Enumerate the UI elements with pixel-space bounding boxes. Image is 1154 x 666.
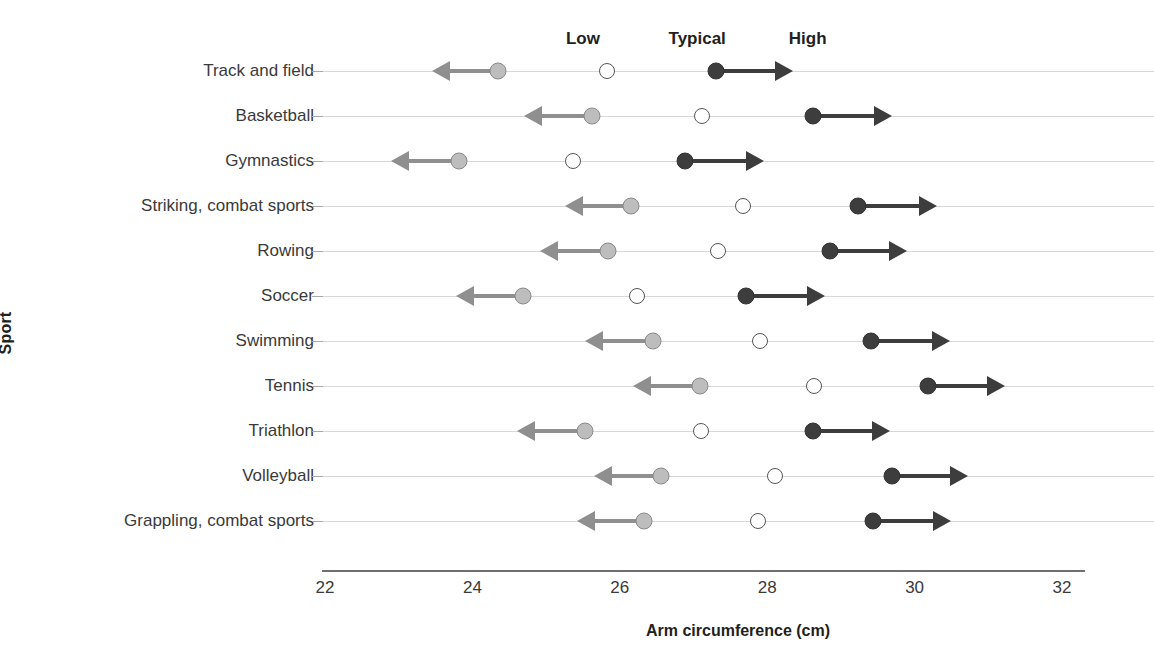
category-label: Track and field (12, 61, 322, 81)
y-axis-tick (312, 71, 323, 72)
x-axis-title: Arm circumference (cm) (322, 622, 1154, 640)
low-marker[interactable] (451, 153, 468, 170)
typical-marker[interactable] (752, 333, 768, 349)
low-marker[interactable] (577, 423, 594, 440)
low-arrow-head (391, 151, 409, 171)
low-arrow-head (565, 196, 583, 216)
high-arrow-head (807, 286, 825, 306)
low-marker[interactable] (600, 243, 617, 260)
category-label: Tennis (12, 376, 322, 396)
high-arrow-shaft (813, 114, 881, 118)
high-marker[interactable] (677, 153, 694, 170)
typical-marker[interactable] (710, 243, 726, 259)
high-arrow-head (874, 106, 892, 126)
high-arrow-shaft (871, 339, 938, 343)
low-arrow-head (456, 286, 474, 306)
high-arrow-head (746, 151, 764, 171)
category-label: Gymnastics (12, 151, 322, 171)
x-tick-label: 26 (610, 578, 629, 598)
band-label-low: Low (566, 29, 600, 49)
high-marker[interactable] (737, 288, 754, 305)
typical-marker[interactable] (750, 513, 766, 529)
high-arrow-shaft (830, 249, 895, 253)
y-axis-tick (312, 431, 323, 432)
category-label: Basketball (12, 106, 322, 126)
y-axis-tick (312, 476, 323, 477)
typical-marker[interactable] (629, 288, 645, 304)
y-axis-tick (312, 521, 323, 522)
typical-marker[interactable] (767, 468, 783, 484)
row-gridline (322, 476, 1154, 477)
x-tick-label: 32 (1053, 578, 1072, 598)
x-tick-label: 28 (758, 578, 777, 598)
high-arrow-shaft (813, 429, 878, 433)
low-arrow-head (585, 331, 603, 351)
low-marker[interactable] (583, 108, 600, 125)
high-arrow-shaft (716, 69, 781, 73)
high-marker[interactable] (919, 378, 936, 395)
low-marker[interactable] (490, 63, 507, 80)
typical-marker[interactable] (806, 378, 822, 394)
low-marker[interactable] (644, 333, 661, 350)
high-arrow-shaft (892, 474, 956, 478)
y-axis-tick (312, 161, 323, 162)
x-axis-line (322, 570, 1085, 572)
high-marker[interactable] (865, 513, 882, 530)
y-axis-tick (312, 296, 323, 297)
high-marker[interactable] (849, 198, 866, 215)
high-marker[interactable] (821, 243, 838, 260)
high-marker[interactable] (804, 108, 821, 125)
low-marker[interactable] (515, 288, 532, 305)
typical-marker[interactable] (693, 423, 709, 439)
category-label: Grappling, combat sports (12, 511, 322, 531)
high-marker[interactable] (883, 468, 900, 485)
high-marker[interactable] (863, 333, 880, 350)
y-axis-tick (312, 116, 323, 117)
high-arrow-head (775, 61, 793, 81)
high-marker[interactable] (804, 423, 821, 440)
high-arrow-shaft (873, 519, 939, 523)
high-arrow-head (889, 241, 907, 261)
band-label-high: High (789, 29, 827, 49)
high-arrow-shaft (858, 204, 925, 208)
typical-marker[interactable] (735, 198, 751, 214)
low-marker[interactable] (622, 198, 639, 215)
category-label: Volleyball (12, 466, 322, 486)
x-tick-label: 22 (316, 578, 335, 598)
typical-marker[interactable] (565, 153, 581, 169)
high-arrow-head (919, 196, 937, 216)
row-gridline (322, 521, 1154, 522)
low-arrow-head (633, 376, 651, 396)
low-marker[interactable] (636, 513, 653, 530)
low-arrow-head (577, 511, 595, 531)
band-label-typical: Typical (669, 29, 726, 49)
y-axis-tick (312, 386, 323, 387)
high-arrow-head (950, 466, 968, 486)
typical-marker[interactable] (599, 63, 615, 79)
category-label: Rowing (12, 241, 322, 261)
low-marker[interactable] (653, 468, 670, 485)
high-arrow-shaft (685, 159, 751, 163)
typical-marker[interactable] (694, 108, 710, 124)
low-marker[interactable] (692, 378, 709, 395)
y-axis-tick (312, 251, 323, 252)
row-gridline (322, 386, 1154, 387)
low-arrow-head (432, 61, 450, 81)
category-label-column: Track and fieldBasketballGymnasticsStrik… (0, 0, 322, 666)
low-arrow-head (517, 421, 535, 441)
high-marker[interactable] (707, 63, 724, 80)
plot-area: Arm circumference (cm) LowTypicalHigh222… (322, 0, 1154, 666)
row-gridline (322, 251, 1154, 252)
high-arrow-head (987, 376, 1005, 396)
row-gridline (322, 116, 1154, 117)
high-arrow-head (932, 331, 950, 351)
y-axis-tick (312, 341, 323, 342)
high-arrow-head (872, 421, 890, 441)
low-arrow-head (594, 466, 612, 486)
row-gridline (322, 431, 1154, 432)
category-label: Soccer (12, 286, 322, 306)
category-label: Triathlon (12, 421, 322, 441)
low-arrow-head (540, 241, 558, 261)
high-arrow-head (933, 511, 951, 531)
category-label: Swimming (12, 331, 322, 351)
